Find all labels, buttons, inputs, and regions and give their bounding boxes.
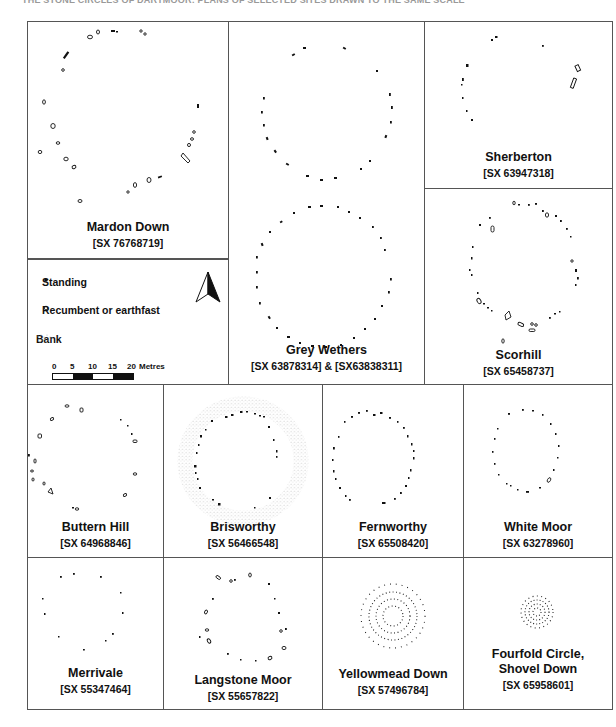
panel-langstone-moor: Langstone Moor [SX 55657822] <box>163 557 323 710</box>
scale-tick: 10 <box>88 362 97 371</box>
site-name: Brisworthy <box>164 520 322 534</box>
site-name: Langstone Moor <box>164 673 322 687</box>
site-grid-ref: [SX 64968846] <box>28 537 163 549</box>
site-grid-ref: [SX 65958601] <box>464 679 612 691</box>
site-name: Fernworthy <box>323 520 463 534</box>
north-arrow-icon <box>192 270 224 306</box>
panel-merrivale: Merrivale [SX 55347464] <box>27 557 164 710</box>
site-grid-ref: [SX 65458737] <box>425 365 612 377</box>
panel-brisworthy: Brisworthy [SX 56466548] <box>163 384 323 558</box>
panel-fernworthy: Fernworthy [SX 65508420] <box>322 384 464 558</box>
standing-stone-icon <box>42 276 50 284</box>
scale-tick: 15 <box>108 362 117 371</box>
scale-tick: 0 <box>52 362 56 371</box>
site-grid-ref: [SX 63947318] <box>425 167 612 179</box>
site-grid-ref: [SX 55347464] <box>28 683 163 695</box>
panel-fourfold-circle: Fourfold Circle, Shovel Down [SX 6595860… <box>463 557 613 710</box>
panel-sherberton: Sherberton [SX 63947318] <box>424 21 613 189</box>
panel-buttern-hill: Buttern Hill [SX 64968846] <box>27 384 164 558</box>
site-grid-ref: [SX 63878314] & [SX63838311] <box>229 360 424 372</box>
site-name-line2: Shovel Down <box>464 662 612 676</box>
recumbent-stone-icon <box>42 304 50 312</box>
cropped-caption: THE STONE CIRCLES OF DARTMOOR: PLANS OF … <box>22 0 542 5</box>
sherberton-plan <box>425 22 614 190</box>
legend-item-recumbent: Recumbent or earthfast <box>42 304 160 316</box>
site-name: Buttern Hill <box>28 520 163 534</box>
site-name: Merrivale <box>28 666 163 680</box>
scale-bar: 0 5 10 15 20 Metres <box>52 362 192 380</box>
site-name: White Moor <box>464 520 612 534</box>
legend-panel: Standing Recumbent or earthfast Bank 0 5… <box>27 259 229 385</box>
langstone-moor-plan <box>164 558 324 711</box>
site-name: Mardon Down <box>28 220 228 234</box>
site-name: Scorhill <box>425 348 612 362</box>
site-grid-ref: [SX 76768719] <box>28 237 228 249</box>
panel-white-moor: White Moor [SX 63278960] <box>463 384 613 558</box>
scale-tick: 5 <box>70 362 74 371</box>
grey-wethers-plan <box>229 22 426 386</box>
legend-item-bank: Bank <box>36 333 62 345</box>
panel-grey-wethers: Grey Wethers [SX 63878314] & [SX63838311… <box>228 21 425 385</box>
scale-tick: 20 <box>127 362 136 371</box>
site-name: Grey Wethers <box>229 343 424 357</box>
site-grid-ref: [SX 65508420] <box>323 537 463 549</box>
bank-stipple-icon <box>36 333 54 343</box>
site-grid-ref: [SX 63278960] <box>464 537 612 549</box>
site-grid-ref: [SX 57496784] <box>323 684 463 696</box>
site-name: Yellowmead Down <box>323 667 463 681</box>
legend-item-standing: Standing <box>42 276 87 288</box>
panel-mardon-down: Mardon Down [SX 76768719] <box>27 21 229 259</box>
site-grid-ref: [SX 55657822] <box>164 690 322 702</box>
site-name: Fourfold Circle, <box>464 647 612 661</box>
scale-unit: Metres <box>139 362 165 371</box>
legend-label: Recumbent or earthfast <box>42 304 160 316</box>
site-name: Sherberton <box>425 150 612 164</box>
panel-yellowmead-down: Yellowmead Down [SX 57496784] <box>322 557 464 710</box>
site-grid-ref: [SX 56466548] <box>164 537 322 549</box>
panel-scorhill: Scorhill [SX 65458737] <box>424 188 613 385</box>
